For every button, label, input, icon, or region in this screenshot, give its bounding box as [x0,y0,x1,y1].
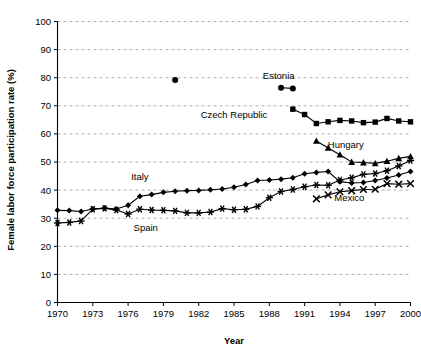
y-tick-label: 0 [46,297,51,308]
series-label-mexico: Mexico [334,192,364,203]
x-tick-label: 1979 [153,308,174,319]
y-tick-label: 70 [40,100,51,111]
data-point-marker [373,119,378,124]
y-tick-label: 60 [40,128,51,139]
y-tick-label: 50 [40,156,51,167]
x-axis-title: Year [224,335,244,346]
data-point-marker [361,120,366,125]
y-tick-label: 10 [40,269,51,280]
x-tick-label: 1982 [188,308,209,319]
chart-background [0,0,421,349]
x-axis-tick-labels: 1970197319761979198219851988199119941997… [47,308,421,319]
data-point-marker [278,85,284,91]
y-tick-label: 40 [40,185,51,196]
x-tick-label: 2000 [400,308,421,319]
data-point-marker [349,118,354,123]
series-label-czech-republic: Czech Republic [201,109,268,120]
data-point-marker [290,85,296,91]
x-tick-label: 1994 [329,308,350,319]
x-tick-label: 1991 [294,308,315,319]
y-tick-label: 20 [40,241,51,252]
data-point-marker [172,77,178,83]
series-label-italy: Italy [131,171,149,182]
data-point-marker [290,106,295,111]
series-label-spain: Spain [134,222,158,233]
data-point-marker [396,118,401,123]
data-point-marker [302,112,307,117]
y-tick-label: 90 [40,44,51,55]
x-tick-label: 1985 [223,308,244,319]
line-chart: 0102030405060708090100 19701973197619791… [0,0,421,349]
x-tick-label: 1988 [259,308,280,319]
series-label-estonia: Estonia [263,70,295,81]
data-point-marker [408,119,413,124]
data-point-marker [337,118,342,123]
y-tick-label: 30 [40,213,51,224]
data-point-marker [325,119,330,124]
x-tick-label: 1970 [47,308,68,319]
x-tick-label: 1976 [118,308,139,319]
chart-container: 0102030405060708090100 19701973197619791… [0,0,421,349]
data-point-marker [384,116,389,121]
y-tick-label: 100 [35,16,51,27]
x-tick-label: 1997 [365,308,386,319]
series-label-hungary: Hungary [328,139,364,150]
y-tick-label: 80 [40,72,51,83]
y-axis-title: Female labor force participation rate (%… [5,69,16,251]
data-point-marker [314,121,319,126]
x-tick-label: 1973 [82,308,103,319]
